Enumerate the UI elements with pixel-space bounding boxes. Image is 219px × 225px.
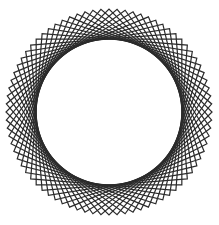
figure-canvas <box>0 0 219 225</box>
rosette-diagram <box>0 0 219 225</box>
